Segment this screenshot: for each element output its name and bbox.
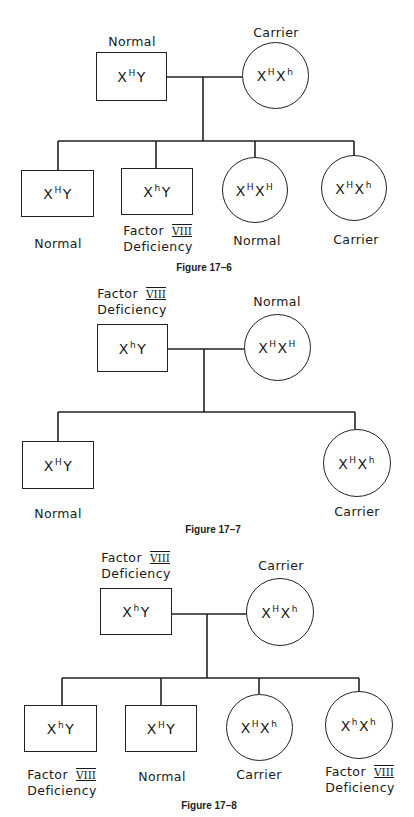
allele: h: [370, 717, 376, 727]
label-text: Carrier: [258, 558, 304, 573]
x-symbol: X: [236, 183, 246, 199]
genotype: XhY: [122, 603, 149, 620]
allele: h: [133, 603, 139, 613]
label-text: Carrier: [333, 232, 379, 247]
fig1-child3-circle: XHXH: [222, 157, 288, 223]
genotype: XHXh: [241, 719, 279, 736]
x-symbol: X: [341, 718, 351, 734]
fig2-father-square: XhY: [97, 324, 168, 372]
x-symbol: X: [43, 186, 53, 202]
roman-numeral: VIII: [374, 766, 394, 778]
genotype: XhY: [119, 340, 146, 357]
x-symbol: X: [119, 341, 129, 357]
x-symbol: X: [143, 184, 153, 200]
fig1-child4-label: Carrier: [333, 232, 379, 248]
fig1-child1-label: Normal: [34, 236, 82, 252]
genotype: XHXh: [335, 180, 373, 197]
allele: H: [268, 67, 275, 77]
fig3-child2-square: XHY: [125, 705, 197, 752]
roman-numeral: VIII: [146, 288, 166, 300]
allele: Y: [65, 721, 74, 737]
figure-caption: Figure 17–7: [185, 524, 241, 535]
allele: H: [54, 185, 61, 195]
roman-numeral: VIII: [150, 552, 170, 564]
genotype: XHY: [117, 68, 145, 85]
allele: h: [352, 717, 358, 727]
label-text: Carrier: [253, 25, 299, 40]
allele: Y: [137, 69, 146, 85]
roman-numeral: VIII: [172, 225, 192, 237]
fig1-mother-circle: XHXh: [242, 42, 309, 109]
fig1-child2-label: FactorVIII Deficiency: [123, 223, 192, 255]
genotype: XHXH: [258, 339, 297, 356]
fig2-child2-label: Carrier: [334, 504, 380, 520]
x-symbol: X: [258, 340, 268, 356]
allele: H: [252, 719, 259, 729]
allele: H: [346, 180, 353, 190]
x-symbol: X: [338, 456, 348, 472]
fig3-child1-label: FactorVIII Deficiency: [27, 767, 96, 799]
x-symbol: X: [255, 183, 265, 199]
x-symbol: X: [147, 721, 157, 737]
label-text: Normal: [34, 236, 82, 251]
fig2-mother-circle: XHXH: [244, 314, 311, 381]
allele: h: [287, 67, 293, 77]
fig3-child1-square: XhY: [24, 705, 97, 752]
label-text: Deficiency: [325, 780, 394, 795]
label-text: Normal: [108, 34, 156, 49]
x-symbol: X: [241, 720, 251, 736]
label-text: Deficiency: [27, 783, 96, 798]
fig2-father-label: FactorVIII Deficiency: [97, 286, 166, 318]
fig3-mother-circle: XHXh: [246, 578, 314, 646]
allele: H: [158, 720, 165, 730]
allele: Y: [162, 184, 171, 200]
fig3-child4-circle: XhXh: [325, 691, 393, 759]
label-text: Normal: [34, 506, 82, 521]
fig1-father-label: Normal: [108, 34, 156, 50]
fig1-mother-label: Carrier: [253, 25, 299, 41]
allele: h: [154, 183, 160, 193]
allele: h: [292, 604, 298, 614]
x-symbol: X: [359, 718, 369, 734]
fig1-child4-circle: XHXh: [321, 155, 387, 221]
figure-caption: Figure 17–8: [181, 800, 237, 811]
label-text: Carrier: [236, 767, 282, 782]
allele: H: [247, 182, 254, 192]
x-symbol: X: [260, 720, 270, 736]
fig3-father-label: FactorVIII Deficiency: [101, 550, 170, 582]
label-text: Normal: [138, 769, 186, 784]
fig3-father-square: XhY: [100, 588, 172, 635]
allele: H: [128, 68, 135, 78]
figure-caption: Figure 17–6: [176, 262, 232, 273]
allele: h: [366, 180, 372, 190]
x-symbol: X: [358, 456, 368, 472]
fig1-father-square: XHY: [96, 52, 167, 101]
label-text: Deficiency: [123, 239, 192, 254]
fig1-child1-square: XHY: [21, 170, 94, 217]
fig1-child3-label: Normal: [233, 233, 281, 249]
label-text: Factor: [27, 767, 68, 782]
genotype: XHXH: [236, 182, 275, 199]
allele: h: [130, 340, 136, 350]
x-symbol: X: [117, 69, 127, 85]
allele: H: [55, 457, 62, 467]
allele: H: [269, 339, 276, 349]
genotype: XHXh: [338, 455, 376, 472]
x-symbol: X: [335, 181, 345, 197]
genotype: XHY: [147, 720, 175, 737]
x-symbol: X: [278, 340, 288, 356]
fig1-child2-square: XhY: [121, 168, 193, 215]
label-text: Factor: [101, 550, 142, 565]
label-text: Factor: [97, 286, 138, 301]
label-text: Deficiency: [101, 566, 170, 581]
label-text: Normal: [253, 294, 301, 309]
genotype: XHY: [43, 185, 71, 202]
genotype: XhY: [143, 183, 170, 200]
genotype: XHXh: [261, 604, 299, 621]
allele: Y: [137, 341, 146, 357]
genotype: XHXh: [257, 67, 295, 84]
label-text: Factor: [325, 764, 366, 779]
fig3-child3-label: Carrier: [236, 767, 282, 783]
allele: Y: [141, 604, 150, 620]
fig2-mother-label: Normal: [253, 294, 301, 310]
